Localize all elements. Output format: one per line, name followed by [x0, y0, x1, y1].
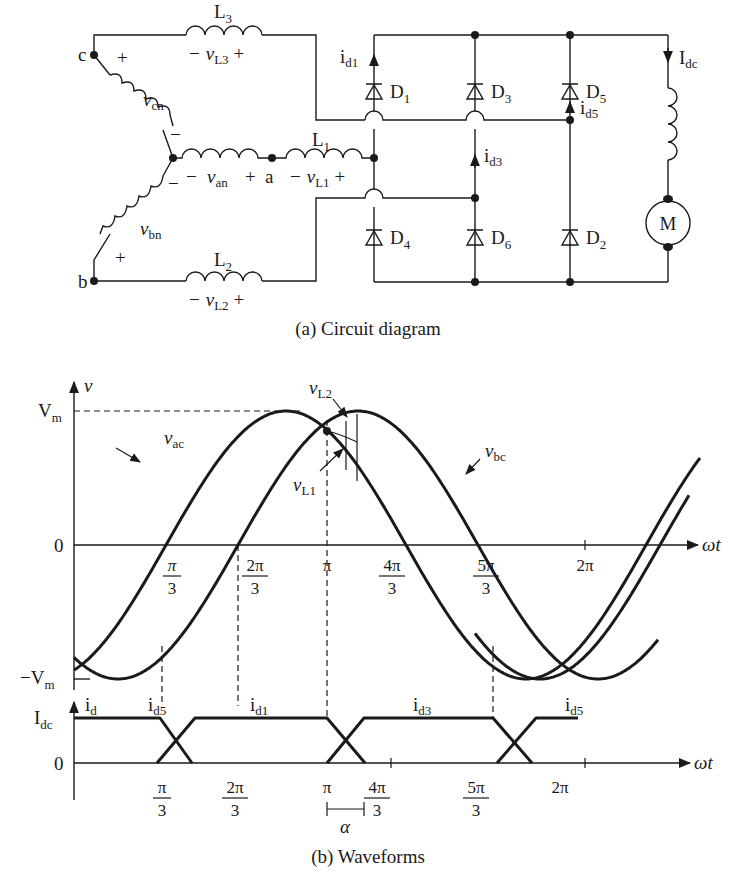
- ylabel-v: v: [84, 375, 93, 396]
- vcn-label: vcn: [143, 89, 164, 113]
- inductor-l2: [186, 272, 262, 281]
- voltage-waveform-plot: Vm 0 −Vm v ωt vac vbc vL2 vL1 π 3 2π 3 π…: [20, 375, 721, 718]
- node-a-label: a: [265, 166, 274, 187]
- overlap-alpha: α: [340, 816, 351, 837]
- svg-text:π: π: [168, 556, 177, 575]
- current-waveform-plot: Idc 0 id ωt id5 id1 id3 id5 π 3 2π 3 π 4…: [34, 694, 713, 868]
- circuit-diagram: M c b a + vcn − − − van + vbn + L3 −: [78, 1, 698, 340]
- node-b-label: b: [78, 271, 88, 292]
- vl2-label: −vL2+: [189, 289, 244, 313]
- d6-label: D6: [491, 227, 512, 252]
- svg-text:3: 3: [231, 801, 240, 820]
- label-vbc: vbc: [485, 440, 506, 464]
- d2-label: D2: [586, 227, 606, 252]
- xticks-lower: π 3 2π 3 π 4π 3 5π 3 2π: [153, 778, 569, 820]
- svg-text:3: 3: [158, 801, 167, 820]
- svg-text:3: 3: [472, 801, 481, 820]
- svg-text:5π: 5π: [477, 556, 495, 575]
- svg-text:5π: 5π: [467, 778, 485, 797]
- caption-a: (a) Circuit diagram: [295, 318, 441, 340]
- svg-text:π: π: [323, 556, 332, 575]
- ytick-idc: Idc: [34, 707, 53, 732]
- van-plus: +: [245, 166, 256, 187]
- svg-text:4π: 4π: [368, 778, 386, 797]
- label-id1: id1: [250, 694, 268, 718]
- label-id5-b: id5: [565, 694, 583, 718]
- vbn-label: vbn: [140, 218, 162, 242]
- source-winding-bn: [100, 176, 163, 234]
- svg-text:2π: 2π: [246, 556, 264, 575]
- vl1-label: −vL1+: [290, 166, 345, 190]
- svg-text:2π: 2π: [226, 778, 244, 797]
- vl3-label: −vL3+: [189, 43, 244, 67]
- caption-b: (b) Waveforms: [311, 846, 425, 868]
- figure: M c b a + vcn − − − van + vbn + L3 −: [0, 0, 736, 893]
- ytick-zero-2: 0: [54, 753, 64, 774]
- svg-text:π: π: [323, 778, 332, 797]
- id1-label: id1: [340, 46, 358, 70]
- svg-text:3: 3: [373, 801, 382, 820]
- label-id3: id3: [413, 694, 431, 718]
- d4-label: D4: [390, 227, 411, 252]
- van-minus-2: −: [186, 166, 197, 187]
- l3-label: L3: [214, 1, 232, 26]
- xlabel-wt: ωt: [702, 534, 721, 555]
- d5-label: D5: [586, 81, 606, 106]
- svg-text:2π: 2π: [576, 556, 594, 575]
- svg-text:3: 3: [482, 579, 491, 598]
- vcn-minus: −: [170, 124, 181, 145]
- svg-text:3: 3: [388, 579, 397, 598]
- ytick-zero: 0: [54, 535, 64, 556]
- svg-text:4π: 4π: [383, 556, 401, 575]
- svg-text:3: 3: [251, 579, 260, 598]
- l2-label: L2: [214, 249, 232, 274]
- inductor-l3: [186, 26, 262, 35]
- motor-label: M: [660, 213, 677, 234]
- d3-label: D3: [491, 81, 511, 106]
- smoothing-inductor: [668, 88, 677, 160]
- svg-text:2π: 2π: [551, 778, 569, 797]
- source-winding-an: [173, 149, 272, 158]
- node-c-label: c: [78, 44, 86, 65]
- label-id5-a: id5: [148, 694, 166, 718]
- ytick-vm: Vm: [38, 400, 62, 425]
- id3-label: id3: [484, 145, 502, 169]
- label-vl2: vL2: [309, 377, 332, 401]
- svg-text:π: π: [158, 778, 167, 797]
- xlabel-wt-2: ωt: [694, 752, 713, 773]
- ylabel-id: id: [85, 694, 97, 718]
- ytick-neg-vm: −Vm: [20, 667, 55, 692]
- van-minus: −: [168, 173, 179, 194]
- van-label: van: [207, 166, 228, 190]
- d1-label: D1: [390, 81, 410, 106]
- label-vac: vac: [164, 427, 184, 451]
- vbn-plus: +: [115, 247, 126, 268]
- l1-label: L1: [312, 129, 330, 154]
- svg-text:3: 3: [168, 579, 177, 598]
- idc-label: Idc: [679, 47, 698, 71]
- vcn-plus: +: [117, 47, 128, 68]
- wave-vba: [475, 495, 689, 679]
- label-vl1: vL1: [293, 474, 316, 498]
- dc-motor: M: [646, 195, 690, 251]
